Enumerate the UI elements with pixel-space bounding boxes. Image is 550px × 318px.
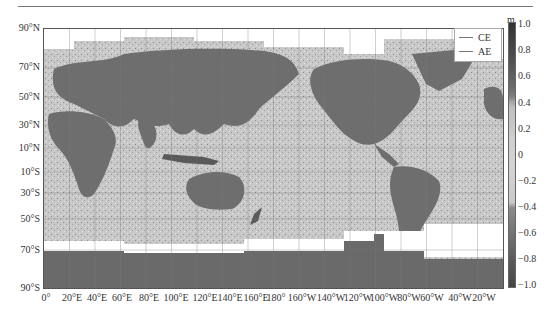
top-rule [18,6,533,7]
y-tick: 10°S [20,166,40,177]
x-tick: 160°W [288,292,316,303]
colorbar-tick: 0.8 [518,44,531,55]
x-tick: 100°E [163,292,188,303]
colorbar-tick: −1.0 [518,279,536,290]
x-tick: 160°E [243,292,268,303]
colorbar-tick: 1.0 [518,18,531,29]
y-tick: 30°S [20,187,40,198]
x-tick: 40°E [87,292,107,303]
x-tick: 20°E [62,292,82,303]
x-tick: 80°E [139,292,159,303]
y-tick: 90°N [19,22,40,33]
x-tick: 140°W [317,292,345,303]
legend-label: CE [478,32,491,43]
y-tick: 10°N [19,142,40,153]
colorbar-tick: 0.4 [518,97,531,108]
legend: CE AE [454,28,502,62]
legend-label: AE [478,46,491,57]
x-tick: 20°W [472,292,495,303]
x-tick: 60°E [112,292,132,303]
x-tick: 120°E [192,292,217,303]
x-tick: 180° [267,292,286,303]
x-tick: 40°W [448,292,471,303]
y-tick: 50°N [19,91,40,102]
x-tick: 120°W [344,292,372,303]
legend-item-ce: CE [459,32,491,43]
y-tick: 90°S [20,282,40,293]
colorbar-tick: −0.8 [518,253,536,264]
legend-line-icon [459,37,473,38]
colorbar-tick: 0.6 [518,70,531,81]
colorbar-tick: 0.2 [518,123,531,134]
legend-item-ae: AE [459,46,491,57]
y-tick: 70°N [19,61,40,72]
legend-line-icon [459,51,473,52]
colorbar-tick: 0 [518,149,523,160]
y-tick: 30°N [19,119,40,130]
x-tick: 100°W [370,292,398,303]
y-tick: 50°S [20,213,40,224]
map-graphic [44,29,503,288]
colorbar-tick: −0.6 [518,227,536,238]
colorbar [508,22,516,288]
colorbar-tick: −0.2 [518,175,536,186]
x-tick: 140°E [217,292,242,303]
x-tick: 0° [42,292,51,303]
world-map [43,28,504,289]
x-tick: 60°W [420,292,443,303]
y-tick: 70°S [20,244,40,255]
colorbar-tick: −0.4 [518,201,536,212]
x-tick: 80°W [397,292,420,303]
